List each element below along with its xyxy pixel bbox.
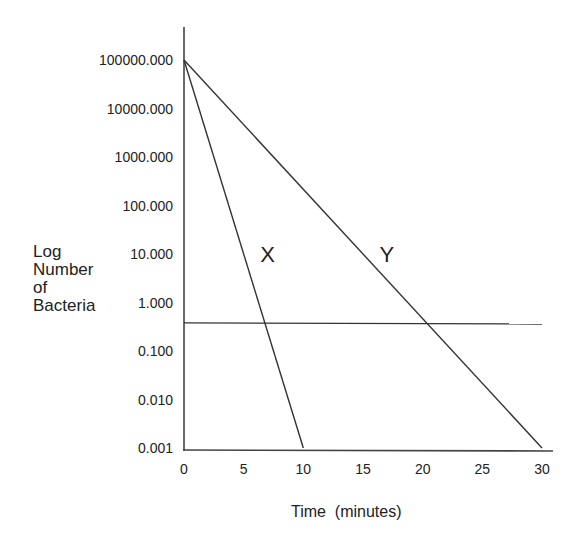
series-line-x [184, 60, 303, 448]
y-tick-labels: 100000.00010000.0001000.000100.00010.000… [99, 52, 173, 456]
y-tick-label: 10000.000 [107, 101, 173, 117]
y-tick-label: 0.100 [138, 343, 173, 359]
series-label-x: X [260, 242, 275, 267]
x-axis-label: Time (minutes) [291, 503, 402, 520]
series-line-y [184, 60, 542, 448]
y-tick-label: 1000.000 [115, 149, 174, 165]
x-tick-labels: 051015202530 [180, 461, 550, 477]
x-axis [183, 450, 553, 451]
x-tick-label: 20 [415, 461, 431, 477]
x-tick-label: 15 [355, 461, 371, 477]
y-tick-label: 10.000 [130, 246, 173, 262]
x-tick-label: 30 [534, 461, 550, 477]
x-tick-label: 10 [296, 461, 312, 477]
x-tick-label: 25 [475, 461, 491, 477]
x-tick-label: 5 [240, 461, 248, 477]
y-axis-label-line-3: of [33, 278, 47, 297]
y-axis-label-line-1: Log [33, 242, 61, 261]
chart: 100000.00010000.0001000.000100.00010.000… [0, 0, 583, 544]
y-tick-label: 0.010 [138, 392, 173, 408]
series-label-y: Y [380, 242, 395, 267]
y-tick-label: 100.000 [122, 198, 173, 214]
y-tick-label: 100000.000 [99, 52, 173, 68]
x-tick-label: 0 [180, 461, 188, 477]
threshold-line [184, 323, 542, 324]
series-group: XY [184, 60, 542, 448]
y-tick-label: 1.000 [138, 295, 173, 311]
y-tick-label: 0.001 [138, 440, 173, 456]
y-axis-label-line-2: Number [33, 260, 94, 279]
y-axis-label-line-4: Bacteria [33, 296, 96, 315]
